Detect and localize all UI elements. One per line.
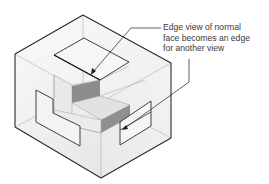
callout-line-2: face becomes an edge bbox=[163, 33, 269, 44]
callout-line-3: for another view bbox=[163, 43, 269, 54]
callout-line-1: Edge view of normal bbox=[163, 22, 269, 33]
callout-label: Edge view of normal face becomes an edge… bbox=[163, 22, 269, 54]
